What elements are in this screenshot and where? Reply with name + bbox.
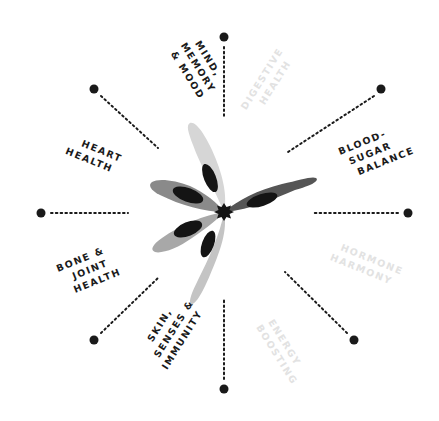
spoke-right: [312, 209, 413, 218]
label-blood-sugar-balance[interactable]: BLOOD- SUGAR BALANCE: [337, 120, 416, 181]
label-mind-memory-mood[interactable]: MIND, MEMORY & MOOD: [168, 33, 229, 101]
spoke-end-dot-icon[interactable]: [377, 85, 386, 94]
spoke-end-dot-icon[interactable]: [90, 336, 99, 345]
dotted-line: [101, 278, 158, 333]
spoke-bottom-right: [285, 272, 359, 345]
health-wheel-diagram: MIND, MEMORY & MOOD DIGESTIVE HEALTH BLO…: [0, 0, 439, 421]
label-energy-boosting[interactable]: ENERGY BOOSTING: [254, 316, 311, 387]
label-hormone-harmony[interactable]: HORMONE HARMONY: [329, 239, 405, 288]
spoke-end-dot-icon[interactable]: [404, 209, 413, 218]
spoke-left: [37, 209, 129, 218]
spoke-top-left: [90, 85, 159, 149]
label-digestive-health[interactable]: DIGESTIVE HEALTH: [238, 46, 296, 119]
label-heart-health[interactable]: HEART HEALTH: [64, 133, 124, 176]
label-skin-senses-immunity[interactable]: SKIN, SENSES & IMMUNITY: [136, 290, 206, 371]
dotted-line: [101, 96, 158, 148]
spoke-end-dot-icon[interactable]: [37, 209, 46, 218]
label-bone-joint-health[interactable]: BONE & JOINT HEALTH: [55, 242, 123, 298]
spoke-end-dot-icon[interactable]: [350, 336, 359, 345]
spoke-end-dot-icon[interactable]: [220, 385, 229, 394]
spoke-top: [220, 33, 229, 119]
spoke-end-dot-icon[interactable]: [90, 85, 99, 94]
dotted-line: [285, 272, 347, 333]
spoke-bottom: [220, 300, 229, 394]
spoke-end-dot-icon[interactable]: [220, 33, 229, 42]
